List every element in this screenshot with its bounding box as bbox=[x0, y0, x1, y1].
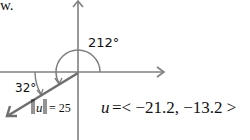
diagram-canvas: 212° 32° u = 25 u =< −21.2, −13.2 > bbox=[0, 0, 250, 140]
component-values: =< −21.2, −13.2 > bbox=[112, 98, 236, 117]
y-axis bbox=[73, 1, 83, 140]
component-form: u =< −21.2, −13.2 > bbox=[101, 98, 236, 117]
magnitude-value: = 25 bbox=[49, 101, 71, 115]
angle-label-212: 212° bbox=[88, 35, 119, 50]
magnitude-var: u bbox=[36, 100, 43, 115]
component-var: u bbox=[101, 98, 110, 117]
x-axis bbox=[0, 67, 164, 77]
vector-diagram: w. 212° 32° bbox=[0, 0, 250, 140]
magnitude-label: u = 25 bbox=[32, 99, 71, 115]
angle-label-32: 32° bbox=[15, 81, 36, 95]
